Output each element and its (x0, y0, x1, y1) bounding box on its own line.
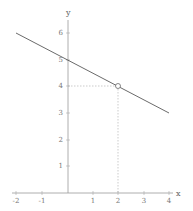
chart: -2 -1 1 2 3 4 1 2 3 4 5 6 x y (0, 0, 193, 211)
x-tick: -2 (13, 197, 20, 205)
y-tick: 2 (59, 136, 63, 144)
x-tick: 1 (91, 197, 95, 205)
y-tick: 6 (59, 29, 64, 37)
x-axis-label: x (176, 189, 181, 198)
y-tick: 3 (59, 109, 63, 117)
x-tick: 3 (142, 197, 146, 205)
x-tick: -1 (39, 197, 46, 205)
y-axis-label: y (65, 8, 71, 17)
data-line (16, 33, 169, 113)
highlighted-point (116, 84, 121, 89)
x-tick: 2 (116, 197, 120, 205)
y-tick: 4 (59, 82, 64, 90)
y-tick: 1 (59, 162, 63, 170)
x-tick: 4 (167, 197, 172, 205)
